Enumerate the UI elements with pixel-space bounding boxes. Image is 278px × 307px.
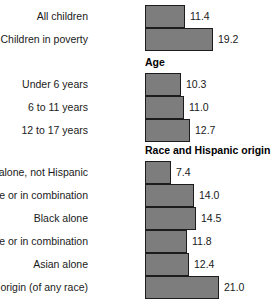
value-label: 12.4 — [194, 253, 214, 276]
bar-row: Hispanic origin (of any race) 21.0 — [0, 276, 278, 299]
value-label: 12.7 — [195, 119, 215, 142]
bar-row: Asian alone or in combination 11.8 — [0, 230, 278, 253]
bar — [145, 207, 196, 230]
bar-row: Black alone or in combination 14.0 — [0, 184, 278, 207]
category-label: 6 to 11 years — [28, 96, 88, 119]
value-label: 19.2 — [218, 28, 238, 51]
value-label: 14.5 — [201, 207, 221, 230]
category-label: Asian alone — [33, 253, 88, 276]
section-heading-age: Age — [145, 56, 165, 68]
bar-row: Asian alone 12.4 — [0, 253, 278, 276]
bar-chart: All children 11.4 Children in poverty 19… — [0, 0, 278, 307]
value-label: 7.4 — [176, 161, 191, 184]
bar-row: Children in poverty 19.2 — [0, 28, 278, 51]
bar-row: Under 6 years 10.3 — [0, 73, 278, 96]
bar-row: All children 11.4 — [0, 5, 278, 28]
chart-group-overall: All children 11.4 Children in poverty 19… — [0, 5, 278, 51]
bar-row: White alone, not Hispanic 7.4 — [0, 161, 278, 184]
bar — [145, 28, 213, 51]
chart-group-age: Under 6 years 10.3 6 to 11 years 11.0 12… — [0, 73, 278, 142]
bar-row: Black alone 14.5 — [0, 207, 278, 230]
value-label: 21.0 — [224, 276, 244, 299]
value-label: 14.0 — [199, 184, 219, 207]
bar — [145, 96, 184, 119]
bar — [145, 161, 171, 184]
category-label: White alone, not Hispanic — [0, 161, 88, 184]
bar — [145, 184, 194, 207]
value-label: 11.0 — [189, 96, 209, 119]
bar — [145, 5, 185, 28]
category-label: Under 6 years — [22, 73, 88, 96]
bar — [145, 253, 189, 276]
category-label: All children — [37, 5, 88, 28]
bar — [145, 73, 181, 96]
value-label: 10.3 — [186, 73, 206, 96]
category-label: Children in poverty — [0, 28, 88, 51]
category-label: 12 to 17 years — [21, 119, 88, 142]
section-heading-race: Race and Hispanic origin — [145, 144, 270, 156]
category-label: Asian alone or in combination — [0, 230, 88, 253]
category-label: Black alone — [34, 207, 88, 230]
category-label: Black alone or in combination — [0, 184, 88, 207]
category-label: Hispanic origin (of any race) — [0, 276, 88, 299]
bar — [145, 230, 187, 253]
bar — [145, 119, 190, 142]
value-label: 11.4 — [190, 5, 210, 28]
value-label: 11.8 — [192, 230, 212, 253]
bar — [145, 276, 219, 299]
bar-row: 12 to 17 years 12.7 — [0, 119, 278, 142]
chart-group-race: White alone, not Hispanic 7.4 Black alon… — [0, 161, 278, 299]
bar-row: 6 to 11 years 11.0 — [0, 96, 278, 119]
